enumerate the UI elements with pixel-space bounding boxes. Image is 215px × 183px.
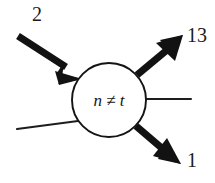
edge-label-1: 1	[187, 149, 197, 171]
edge-in-lower-left-shaft	[17, 121, 78, 129]
flow-node-diagram: n ≠ t 2 13 1	[0, 0, 215, 183]
node-label: n ≠ t	[93, 91, 125, 110]
edge-label-2: 2	[32, 3, 42, 25]
edge-in-lower-left	[17, 121, 78, 129]
edge-label-13: 13	[187, 24, 207, 46]
edge-out-upper-right-shaft	[137, 50, 167, 75]
edge-out-upper-right	[137, 35, 183, 75]
edge-in-upper-left-shaft	[18, 36, 66, 67]
diagram-canvas: n ≠ t 2 13 1	[0, 0, 215, 183]
edge-in-upper-left	[18, 36, 82, 85]
edge-out-lower-right	[136, 126, 181, 164]
edge-out-lower-right-shaft	[136, 126, 164, 150]
